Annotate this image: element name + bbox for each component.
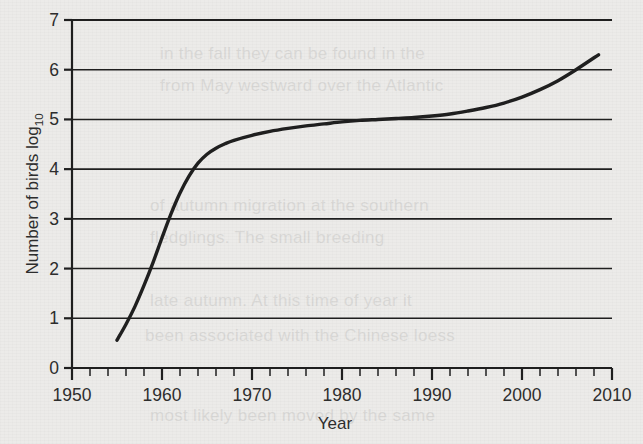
bird-population-line-chart: 1950196019701980199020002010 01234567 Ye… <box>0 0 643 444</box>
y-tick-label-4: 4 <box>49 159 59 179</box>
x-tick-labels: 1950196019701980199020002010 <box>53 385 632 405</box>
gridlines <box>72 20 612 318</box>
y-tick-label-6: 6 <box>49 60 59 80</box>
y-axis-ticks <box>64 20 72 368</box>
x-tick-label-1960: 1960 <box>143 385 182 405</box>
y-axis-title-main: Number of birds log <box>23 126 42 274</box>
y-tick-label-7: 7 <box>49 10 59 30</box>
x-axis-ticks <box>72 368 612 380</box>
y-tick-labels: 01234567 <box>49 10 59 378</box>
y-tick-label-5: 5 <box>49 109 59 129</box>
y-tick-label-2: 2 <box>49 259 59 279</box>
axis-lines <box>72 19 612 368</box>
chart-figure: 1950196019701980199020002010 01234567 Ye… <box>0 0 643 444</box>
y-tick-label-1: 1 <box>49 308 59 328</box>
y-axis-title-subscript: 10 <box>33 113 45 126</box>
y-tick-label-0: 0 <box>49 358 59 378</box>
x-tick-label-1980: 1980 <box>323 385 362 405</box>
series-line-0 <box>117 55 599 340</box>
x-tick-label-2000: 2000 <box>503 385 542 405</box>
x-tick-label-1950: 1950 <box>53 385 92 405</box>
x-tick-label-2010: 2010 <box>593 385 632 405</box>
data-series-line <box>117 55 599 340</box>
x-tick-label-1990: 1990 <box>413 385 452 405</box>
y-tick-label-3: 3 <box>49 209 59 229</box>
x-axis-title: Year <box>318 414 353 433</box>
x-tick-label-1970: 1970 <box>233 385 272 405</box>
y-axis-title: Number of birds log10 <box>23 113 45 274</box>
